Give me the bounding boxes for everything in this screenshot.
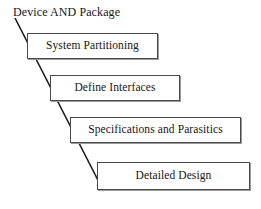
stage-box-specifications-and-parasitics[interactable]: Specifications and Parasitics [70,117,241,143]
stage-box-system-partitioning[interactable]: System Partitioning [27,33,158,59]
stage-box-detailed-design[interactable]: Detailed Design [97,162,250,190]
stage-label: Specifications and Parasitics [88,124,222,136]
flow-diagram: Device AND Package System Partitioning D… [0,0,261,209]
stage-box-define-interfaces[interactable]: Define Interfaces [50,75,180,101]
stage-label: Define Interfaces [74,82,155,94]
diagram-heading: Device AND Package [13,5,120,20]
stage-label: Detailed Design [136,170,212,182]
stage-label: System Partitioning [46,40,139,52]
